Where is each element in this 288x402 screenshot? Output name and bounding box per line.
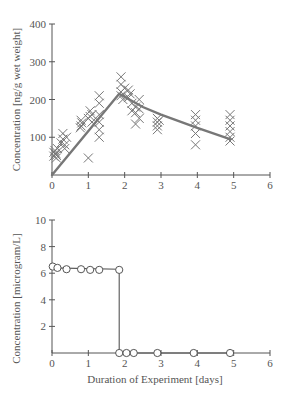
circle-marker xyxy=(63,266,70,273)
x-tick-label: 3 xyxy=(158,179,164,191)
x-marker xyxy=(84,154,93,163)
x-axis-label: Duration of Experiment [days] xyxy=(87,373,222,385)
chart-figure: 0123456100200300400Concentration [ng/g w… xyxy=(0,0,288,402)
step-line xyxy=(52,268,230,353)
x-tick-label: 3 xyxy=(158,357,164,369)
y-tick-label: 8 xyxy=(41,241,47,253)
x-tick-label: 0 xyxy=(49,357,55,369)
x-marker xyxy=(124,86,133,95)
bottom-plot-water-concentration: 0123456246810Concentration [microgram/L]… xyxy=(10,214,273,385)
x-marker xyxy=(95,91,104,100)
x-marker xyxy=(191,129,200,138)
x-tick-label: 6 xyxy=(267,179,273,191)
x-tick-label: 4 xyxy=(195,357,201,369)
y-tick-label: 200 xyxy=(30,94,47,106)
x-tick-label: 0 xyxy=(49,179,55,191)
top-plot-tissue-concentration: 0123456100200300400Concentration [ng/g w… xyxy=(10,18,273,191)
circle-marker xyxy=(116,266,123,273)
circle-marker xyxy=(54,264,61,271)
circle-marker xyxy=(130,349,137,356)
circle-marker xyxy=(226,349,233,356)
circle-marker xyxy=(116,349,123,356)
x-marker xyxy=(191,140,200,149)
y-tick-label: 300 xyxy=(30,56,47,68)
x-tick-label: 5 xyxy=(231,357,237,369)
x-marker xyxy=(95,125,104,134)
circle-marker xyxy=(96,266,103,273)
x-marker xyxy=(131,120,140,129)
circle-marker xyxy=(190,349,197,356)
x-marker xyxy=(95,99,104,108)
y-tick-label: 400 xyxy=(30,18,47,30)
x-tick-label: 6 xyxy=(267,357,273,369)
x-tick-label: 2 xyxy=(122,179,128,191)
y-tick-label: 100 xyxy=(30,131,47,143)
circle-marker xyxy=(123,349,130,356)
circle-marker xyxy=(154,349,161,356)
y-axis-label: Concentration [ng/g wet weight] xyxy=(10,28,22,171)
x-marker xyxy=(135,114,144,123)
x-tick-label: 4 xyxy=(195,179,201,191)
y-tick-label: 2 xyxy=(41,320,47,332)
y-tick-label: 4 xyxy=(41,294,47,306)
y-tick-label: 10 xyxy=(35,214,47,226)
x-marker xyxy=(57,138,66,147)
x-tick-label: 2 xyxy=(122,357,128,369)
circle-marker xyxy=(87,266,94,273)
x-tick-label: 5 xyxy=(231,179,237,191)
circle-marker xyxy=(77,266,84,273)
x-marker xyxy=(95,133,104,142)
x-marker xyxy=(117,72,126,81)
x-tick-label: 1 xyxy=(86,357,92,369)
y-axis-label: Concentration [microgram/L] xyxy=(10,233,22,363)
y-tick-label: 6 xyxy=(41,267,47,279)
x-tick-label: 1 xyxy=(86,179,92,191)
model-fit-line xyxy=(52,94,230,175)
